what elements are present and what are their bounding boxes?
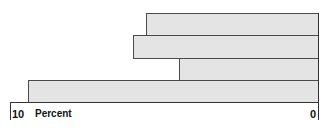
x-axis-unit-label: Percent	[35, 109, 72, 119]
x-axis-tick-label-right: 0	[310, 109, 316, 120]
bar-1	[146, 13, 319, 36]
x-axis-right-tick	[318, 102, 319, 120]
x-axis-line	[10, 102, 319, 103]
bar-2	[133, 35, 319, 58]
right-baseline	[318, 13, 319, 103]
x-axis-tick-label-left: 10	[12, 109, 24, 120]
bar-3	[179, 58, 319, 81]
horizontal-bar-chart: 10 Percent 0	[0, 0, 329, 130]
x-axis-left-tick	[10, 102, 11, 120]
bar-4	[28, 80, 319, 103]
